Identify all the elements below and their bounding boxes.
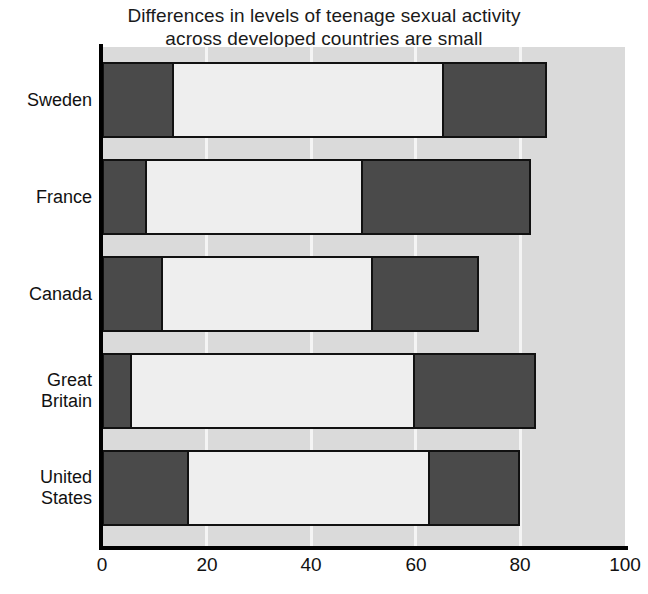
bar-segment-sweden-3: [444, 64, 545, 136]
chart-title-line-1: Differences in levels of teenage sexual …: [0, 4, 648, 27]
category-label-united-states: United States: [0, 467, 92, 509]
stacked-bar-united-states[interactable]: [102, 450, 520, 526]
bar-segment-great-britain-1: [104, 355, 130, 427]
category-label-great-britain-line-2: Britain: [0, 391, 92, 412]
x-tick-label-20: 20: [167, 553, 247, 576]
bar-segment-canada-1: [104, 258, 161, 330]
bar-segment-sweden-1: [104, 64, 172, 136]
category-label-canada-line-1: Canada: [0, 284, 92, 305]
bar-segment-great-britain-3: [415, 355, 534, 427]
x-tick-label-80: 80: [480, 553, 560, 576]
stacked-bar-canada[interactable]: [102, 256, 479, 332]
x-tick-label-0: 0: [62, 553, 142, 576]
bar-segment-canada-2: [161, 258, 373, 330]
y-axis-line: [99, 44, 103, 550]
x-axis-line: [99, 546, 628, 550]
bar-segment-canada-3: [373, 258, 477, 330]
bar-segment-france-1: [104, 161, 145, 233]
category-label-france: France: [0, 187, 92, 208]
category-label-france-line-1: France: [0, 187, 92, 208]
category-label-united-states-line-2: States: [0, 488, 92, 509]
bar-segment-great-britain-2: [130, 355, 415, 427]
bar-segment-france-3: [363, 161, 529, 233]
chart-container: Differences in levels of teenage sexual …: [0, 0, 648, 594]
category-label-sweden-line-1: Sweden: [0, 90, 92, 111]
category-label-great-britain: Great Britain: [0, 370, 92, 412]
stacked-bar-great-britain[interactable]: [102, 353, 536, 429]
category-label-canada: Canada: [0, 284, 92, 305]
category-label-great-britain-line-1: Great: [0, 370, 92, 391]
chart-title: Differences in levels of teenage sexual …: [0, 4, 648, 50]
plot-area: [102, 47, 625, 547]
stacked-bar-sweden[interactable]: [102, 62, 547, 138]
x-tick-label-100: 100: [585, 553, 648, 576]
bar-segment-united-states-2: [187, 452, 430, 524]
bar-segment-united-states-1: [104, 452, 187, 524]
x-tick-label-60: 60: [376, 553, 456, 576]
category-label-united-states-line-1: United: [0, 467, 92, 488]
bar-segment-france-2: [145, 161, 363, 233]
bar-segment-sweden-2: [172, 64, 444, 136]
bar-segment-united-states-3: [430, 452, 518, 524]
category-label-sweden: Sweden: [0, 90, 92, 111]
x-tick-label-40: 40: [271, 553, 351, 576]
stacked-bar-france[interactable]: [102, 159, 531, 235]
